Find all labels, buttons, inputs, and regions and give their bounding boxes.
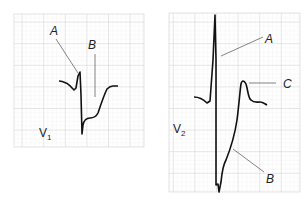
v2-lead-label: V2 (173, 122, 185, 138)
v2-label-c: C (283, 77, 292, 91)
v1-label-b: B (88, 38, 96, 52)
ecg-figure (0, 0, 308, 200)
v2-label-a: A (265, 32, 273, 46)
v1-lead-label: V1 (39, 126, 51, 142)
v2-ecg-grid (169, 13, 300, 192)
v1-label-a: A (50, 24, 58, 38)
v2-label-b: B (266, 172, 274, 186)
v1-ecg-grid (14, 14, 144, 147)
